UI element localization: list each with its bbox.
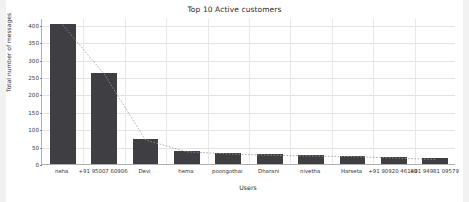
vertical-gridline <box>83 19 84 164</box>
y-tick-mark <box>40 78 42 79</box>
y-tick-mark <box>40 43 42 44</box>
vertical-gridline <box>290 19 291 164</box>
y-tick-mark <box>40 26 42 27</box>
chart-figure: Top 10 Active customers Total number of … <box>0 0 469 202</box>
y-tick-label: 350 <box>28 40 39 46</box>
y-tick-label: 50 <box>32 145 39 151</box>
y-axis-label: Total number of messages <box>5 13 12 92</box>
plot-area: 050100150200250300350400 <box>41 19 455 165</box>
x-tick-label: Devi <box>138 168 150 174</box>
bar <box>133 139 159 164</box>
x-tick-label: +91 95007 60906 <box>79 168 128 174</box>
vertical-gridline <box>125 19 126 164</box>
y-tick-mark <box>40 165 42 166</box>
y-tick-mark <box>40 113 42 114</box>
bar <box>257 154 283 164</box>
bar <box>298 155 324 164</box>
bar <box>215 153 241 164</box>
y-tick-label: 200 <box>28 92 39 98</box>
x-tick-label: Dharani <box>258 168 279 174</box>
bar <box>422 158 448 164</box>
x-axis-label: Users <box>41 184 455 191</box>
bar <box>91 73 117 164</box>
bar <box>381 157 407 164</box>
y-tick-label: 300 <box>28 58 39 64</box>
x-tick-label: +91 94981 09579 <box>410 168 459 174</box>
bar <box>174 151 200 164</box>
y-tick-label: 0 <box>35 162 39 168</box>
y-tick-mark <box>40 148 42 149</box>
x-tick-label: poongothai <box>212 168 243 174</box>
bar <box>50 24 76 164</box>
vertical-gridline <box>166 19 167 164</box>
x-tick-label: nivetha <box>300 168 320 174</box>
chart-title: Top 10 Active customers <box>0 5 469 14</box>
right-margin-band <box>463 0 469 202</box>
y-tick-mark <box>40 95 42 96</box>
y-tick-mark <box>40 61 42 62</box>
y-tick-label: 150 <box>28 110 39 116</box>
x-tick-label: hema <box>178 168 193 174</box>
vertical-gridline <box>332 19 333 164</box>
y-tick-label: 400 <box>28 23 39 29</box>
vertical-gridline <box>208 19 209 164</box>
x-tick-label: Harseta <box>341 168 362 174</box>
y-tick-mark <box>40 130 42 131</box>
vertical-gridline <box>373 19 374 164</box>
y-tick-label: 250 <box>28 75 39 81</box>
bar <box>340 156 366 164</box>
vertical-gridline <box>249 19 250 164</box>
vertical-gridline <box>415 19 416 164</box>
y-tick-label: 100 <box>28 127 39 133</box>
x-tick-label: neha <box>55 168 68 174</box>
